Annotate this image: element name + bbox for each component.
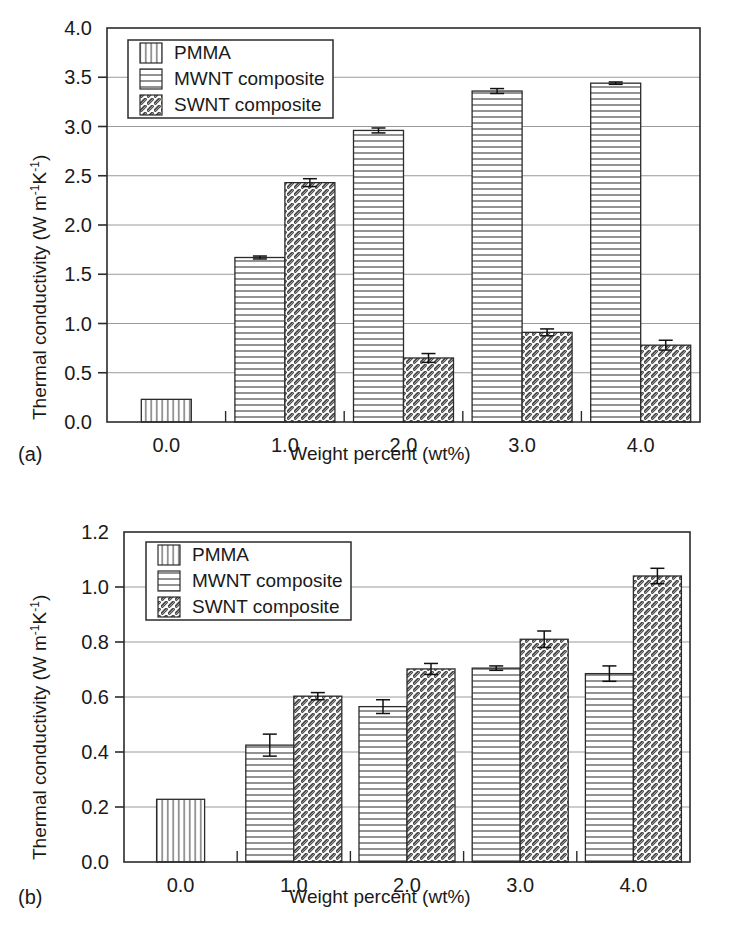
chart-plot-a: 0.00.51.01.52.02.53.03.54.00.01.02.03.04… [0,0,730,468]
panel-label-a: (a) [18,443,42,466]
legend-swatch-vertical [140,43,162,63]
y-tick-label: 2.0 [64,214,92,236]
bar-mwnt-composite-2.0 [359,700,407,862]
figure-panel-a: Thermal conductivity (W m-1K-1) 0.00.51.… [0,0,730,468]
y-tick-label: 1.5 [64,263,92,285]
legend-label: MWNT composite [192,570,343,591]
legend-swatch-vertical [158,545,180,565]
bar-swnt-composite-4.0 [633,568,681,862]
bar-swnt-composite-3.0 [520,631,568,862]
y-tick-label: 1.0 [81,576,109,598]
bar-mwnt-composite-3.0 [472,666,520,862]
bar-mwnt-composite-4.0 [585,666,633,862]
y-tick-label: 3.5 [64,66,92,88]
chart-legend: PMMAMWNT compositeSWNT composite [146,542,351,620]
legend-label: MWNT composite [174,68,325,89]
bar-pmma-0.0 [157,799,205,862]
legend-label: PMMA [192,544,249,565]
y-tick-label: 4.0 [64,17,92,39]
bar-swnt-composite-1.0 [294,693,342,862]
bar-swnt-composite-2.0 [407,663,455,862]
bar-mwnt-composite-1.0 [235,256,285,422]
bar-pmma-0.0 [141,399,191,422]
chart-plot-b: 0.00.20.40.60.81.01.20.01.02.03.04.0PMMA… [0,468,730,936]
legend-label: SWNT composite [174,94,321,115]
legend-label: SWNT composite [192,596,339,617]
x-axis-label-a: Weight percent (wt%) [60,443,700,465]
bar-mwnt-composite-3.0 [472,89,522,422]
y-tick-label: 1.0 [64,313,92,335]
legend-swatch-diagonal [140,95,162,115]
bar-swnt-composite-4.0 [641,340,691,422]
y-tick-label: 0.6 [81,686,109,708]
y-tick-label: 0.0 [64,411,92,433]
legend-label: PMMA [174,42,231,63]
legend-swatch-diagonal [158,597,180,617]
figure-panel-b: Thermal conductivity (W m-1K-1) 0.00.20.… [0,468,730,936]
x-axis-label-b: Weight percent (wt%) [60,886,700,908]
y-tick-label: 0.2 [81,796,109,818]
bar-swnt-composite-1.0 [285,179,335,422]
legend-swatch-horizontal [140,69,162,89]
panel-label-b: (b) [18,886,42,909]
y-tick-label: 0.8 [81,631,109,653]
bar-mwnt-composite-4.0 [591,82,641,422]
bar-swnt-composite-2.0 [404,354,454,422]
y-tick-label: 3.0 [64,116,92,138]
bar-mwnt-composite-1.0 [246,734,294,862]
y-tick-label: 1.2 [81,521,109,543]
chart-legend: PMMAMWNT compositeSWNT composite [128,40,333,118]
y-tick-label: 0.4 [81,741,109,763]
y-tick-label: 0.0 [81,851,109,873]
bar-swnt-composite-3.0 [522,329,572,422]
y-tick-label: 2.5 [64,165,92,187]
y-tick-label: 0.5 [64,362,92,384]
legend-swatch-horizontal [158,571,180,591]
bar-mwnt-composite-2.0 [354,128,404,422]
